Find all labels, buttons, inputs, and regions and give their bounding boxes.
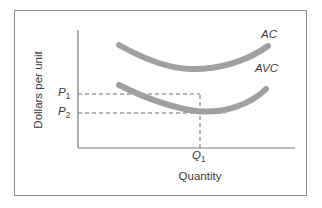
y-axis-label: Dollars per unit (32, 35, 44, 145)
y-tick-label-p1: P1 (58, 87, 70, 102)
avc-curve (119, 85, 266, 112)
avc-curve-label: AVC (255, 63, 278, 75)
y-tick-p2-sub: 2 (66, 111, 71, 120)
x-tick-label-q1: Q1 (192, 150, 206, 165)
y-tick-p1-sub: 1 (66, 92, 71, 101)
ac-curve (119, 45, 268, 69)
y-tick-p2-base: P (58, 105, 66, 117)
y-tick-p1-base: P (58, 86, 66, 98)
x-tick-q1-sub: 1 (201, 155, 206, 164)
x-axis-label: Quantity (120, 170, 280, 182)
ac-curve-label: AC (261, 29, 277, 41)
x-tick-q1-base: Q (192, 149, 201, 161)
figure-container: Dollars per unit Quantity AC AVC P1 P2 Q… (0, 0, 322, 208)
y-tick-label-p2: P2 (58, 106, 70, 121)
